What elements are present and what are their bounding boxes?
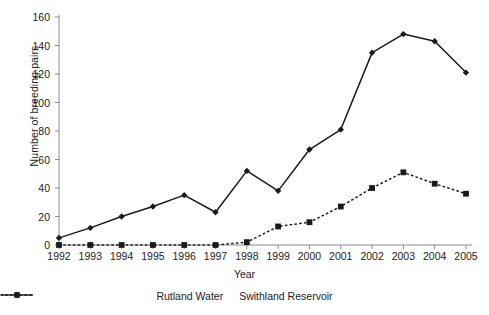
legend-item-rutland-water[interactable]: Rutland Water <box>156 290 223 302</box>
legend-key-dotted-square-icon <box>0 290 34 300</box>
data-point-marker <box>150 203 156 209</box>
data-point-marker <box>369 185 375 191</box>
data-point-marker <box>181 242 187 248</box>
data-point-marker <box>369 49 375 55</box>
data-point-marker <box>118 213 124 219</box>
legend-label-rutland-water: Rutland Water <box>156 290 223 302</box>
chart-legend: Rutland Water Swithland Reservoir <box>0 290 489 302</box>
data-point-marker <box>56 242 62 248</box>
legend-item-swithland-reservoir[interactable]: Swithland Reservoir <box>239 290 332 302</box>
data-point-marker <box>119 242 125 248</box>
data-point-marker <box>87 225 93 231</box>
data-point-marker <box>181 192 187 198</box>
data-point-marker <box>87 242 93 248</box>
data-point-marker <box>400 169 406 175</box>
data-point-marker <box>213 242 219 248</box>
plot-area <box>0 0 489 315</box>
data-point-marker <box>400 31 406 37</box>
data-point-marker <box>150 242 156 248</box>
data-point-marker <box>432 181 438 187</box>
data-point-marker <box>244 239 250 245</box>
data-point-marker <box>463 191 469 197</box>
data-point-marker <box>275 224 281 230</box>
data-point-marker <box>307 219 313 225</box>
chart-container: Number of breeding pairs Year 0204060801… <box>0 0 489 315</box>
data-point-marker <box>56 235 62 241</box>
legend-label-swithland-reservoir: Swithland Reservoir <box>239 290 332 302</box>
data-point-marker <box>338 204 344 210</box>
